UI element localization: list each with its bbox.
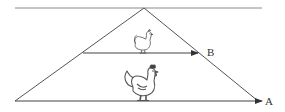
diagram-canvas <box>0 0 285 112</box>
label-a: A <box>265 96 273 107</box>
left-slope-line <box>15 8 144 101</box>
perspective-diagram: B A <box>0 0 285 112</box>
small-chicken-icon <box>134 30 152 53</box>
right-slope-line <box>144 8 258 101</box>
large-rooster-icon <box>125 65 158 101</box>
label-b: B <box>207 47 214 58</box>
